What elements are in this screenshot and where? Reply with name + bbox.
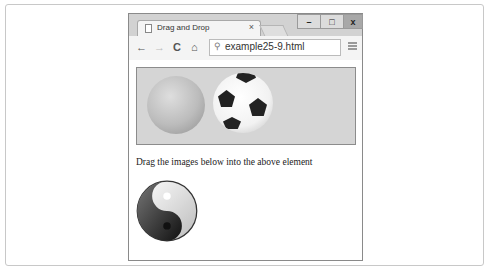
ball-panel <box>223 117 241 129</box>
instruction-text: Drag the images below into the above ele… <box>136 157 312 167</box>
tab-drag-and-drop[interactable]: Drag and Drop × <box>137 20 261 37</box>
page-content: Drag the images below into the above ele… <box>129 60 362 260</box>
back-arrow-icon[interactable]: ← <box>136 41 147 53</box>
url-text[interactable]: example25-9.html <box>225 41 304 52</box>
page-icon <box>145 24 152 33</box>
search-icon: ⚲ <box>214 41 221 51</box>
maximize-button[interactable]: □ <box>320 14 344 29</box>
ball-panel <box>236 73 256 83</box>
home-icon[interactable]: ⌂ <box>191 41 198 53</box>
yin-yang-image[interactable] <box>136 180 198 242</box>
ball-panel <box>218 90 235 107</box>
tab-title: Drag and Drop <box>157 23 209 32</box>
browser-window: Drag and Drop × – □ x ← → C ⌂ ⚲ example2… <box>128 13 363 261</box>
orange-image[interactable] <box>147 76 205 134</box>
title-bar: Drag and Drop × – □ x <box>129 14 362 36</box>
reload-icon[interactable]: C <box>173 41 181 53</box>
menu-icon[interactable] <box>348 42 357 50</box>
address-bar[interactable]: ⚲ example25-9.html <box>209 39 341 56</box>
tab-close-icon[interactable]: × <box>249 22 254 32</box>
drop-zone[interactable] <box>136 67 356 145</box>
browser-toolbar: ← → C ⌂ ⚲ example25-9.html <box>129 36 362 60</box>
close-button[interactable]: x <box>343 14 363 29</box>
soccer-ball-image[interactable] <box>213 73 273 133</box>
minimize-button[interactable]: – <box>297 14 321 29</box>
forward-arrow-icon[interactable]: → <box>154 41 165 53</box>
ball-panel <box>249 98 267 116</box>
